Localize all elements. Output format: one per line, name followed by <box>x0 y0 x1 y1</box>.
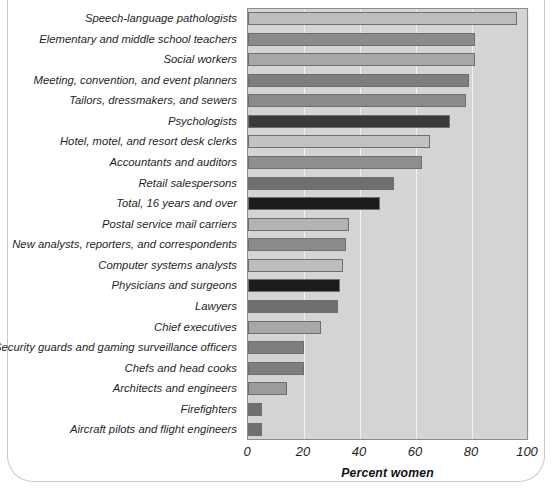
category-label-text: Psychologists <box>168 111 237 132</box>
bar <box>248 74 469 87</box>
category-label: Elementary and middle school teachers <box>0 29 241 50</box>
category-label: Postal service mail carriers <box>0 214 241 235</box>
category-label: Security guards and gaming surveillance … <box>0 337 241 358</box>
horizontal-bar-chart: Speech-language pathologistsElementary a… <box>0 0 553 498</box>
x-tick-100: 100 <box>516 444 538 459</box>
bar <box>248 259 343 272</box>
bar-row <box>248 71 527 92</box>
category-label-text: Accountants and auditors <box>110 152 238 173</box>
bar <box>248 300 338 313</box>
bar <box>248 362 304 375</box>
category-label: Computer systems analysts <box>0 255 241 276</box>
category-label: Speech-language pathologists <box>0 8 241 29</box>
category-label-text: Chefs and head cooks <box>125 358 237 379</box>
category-label: Hotel, motel, and resort desk clerks <box>0 131 241 152</box>
bar <box>248 12 517 25</box>
bar <box>248 33 475 46</box>
bar-row <box>248 256 527 277</box>
x-tick-0: 0 <box>243 444 250 459</box>
bar <box>248 115 450 128</box>
figure-container: Speech-language pathologistsElementary a… <box>0 0 553 498</box>
bar-row <box>248 276 527 297</box>
bar-row <box>248 50 527 71</box>
bar-row <box>248 215 527 236</box>
bar-row <box>248 153 527 174</box>
gridline-100 <box>528 9 529 439</box>
x-axis-tick-labels: 020406080100 <box>247 444 528 462</box>
category-label: New analysts, reporters, and corresponde… <box>0 234 241 255</box>
category-label-text: Physicians and surgeons <box>111 275 237 296</box>
category-label-text: Meeting, convention, and event planners <box>34 70 237 91</box>
bar <box>248 218 349 231</box>
bar <box>248 382 287 395</box>
category-label-text: New analysts, reporters, and corresponde… <box>12 234 237 255</box>
category-label: Meeting, convention, and event planners <box>0 70 241 91</box>
bar-row <box>248 420 527 441</box>
category-label: Lawyers <box>0 296 241 317</box>
category-label: Physicians and surgeons <box>0 275 241 296</box>
category-label: Social workers <box>0 49 241 70</box>
x-tick-80: 80 <box>464 444 478 459</box>
bar-row <box>248 194 527 215</box>
x-axis-title: Percent women <box>247 466 528 480</box>
bar-row <box>248 379 527 400</box>
category-label-text: Tailors, dressmakers, and sewers <box>69 90 237 111</box>
category-label-text: Speech-language pathologists <box>85 8 237 29</box>
bar-row <box>248 235 527 256</box>
category-label-text: Aircraft pilots and flight engineers <box>70 419 237 440</box>
category-label-text: Hotel, motel, and resort desk clerks <box>60 131 237 152</box>
bar <box>248 53 475 66</box>
category-label-text: Postal service mail carriers <box>102 214 237 235</box>
bar <box>248 238 346 251</box>
category-label-text: Computer systems analysts <box>98 255 237 276</box>
category-label: Total, 16 years and over <box>0 193 241 214</box>
category-label-text: Retail salespersons <box>138 173 237 194</box>
bar-row <box>248 91 527 112</box>
bar <box>248 403 262 416</box>
bar-row <box>248 174 527 195</box>
x-tick-20: 20 <box>296 444 310 459</box>
category-label: Tailors, dressmakers, and sewers <box>0 90 241 111</box>
bar <box>248 197 380 210</box>
category-label: Chefs and head cooks <box>0 358 241 379</box>
bar-row <box>248 318 527 339</box>
category-label-text: Social workers <box>164 49 237 70</box>
category-label: Aircraft pilots and flight engineers <box>0 419 241 440</box>
category-label-text: Security guards and gaming surveillance … <box>0 337 237 358</box>
category-label: Retail salespersons <box>0 173 241 194</box>
category-label-text: Total, 16 years and over <box>116 193 237 214</box>
category-label-text: Elementary and middle school teachers <box>39 29 237 50</box>
category-label-text: Chief executives <box>154 317 237 338</box>
bar <box>248 423 262 436</box>
category-label: Architects and engineers <box>0 378 241 399</box>
bar-row <box>248 338 527 359</box>
bar-row <box>248 132 527 153</box>
category-label-text: Firefighters <box>180 399 237 420</box>
bar-row <box>248 112 527 133</box>
bar <box>248 177 394 190</box>
bar-row <box>248 400 527 421</box>
bar <box>248 279 340 292</box>
bar-row <box>248 9 527 30</box>
bar-row <box>248 359 527 380</box>
category-label: Psychologists <box>0 111 241 132</box>
x-tick-60: 60 <box>408 444 422 459</box>
category-label-text: Lawyers <box>195 296 237 317</box>
bar <box>248 321 321 334</box>
bar-row <box>248 297 527 318</box>
category-label: Chief executives <box>0 317 241 338</box>
plot-area <box>247 8 528 440</box>
bar-row <box>248 30 527 51</box>
bar <box>248 156 422 169</box>
bar <box>248 135 430 148</box>
category-label-text: Architects and engineers <box>113 378 237 399</box>
bar <box>248 94 466 107</box>
x-tick-40: 40 <box>352 444 366 459</box>
bar <box>248 341 304 354</box>
category-label: Firefighters <box>0 399 241 420</box>
category-label: Accountants and auditors <box>0 152 241 173</box>
